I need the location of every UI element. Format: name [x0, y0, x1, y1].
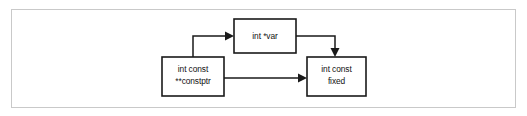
arrow-constptr-to-fixed-head [298, 74, 307, 83]
figure-root: int *var int const **constptr int const … [0, 0, 527, 116]
arrow-constptr-to-var-head [225, 32, 234, 41]
node-int-const-constptr: int const **constptr [162, 57, 224, 96]
arrow-constptr-to-var [193, 32, 234, 58]
arrow-constptr-to-fixed [224, 74, 307, 83]
arrow-var-to-fixed-line [296, 36, 335, 50]
node-int-star-var-label: int *var [252, 31, 278, 41]
arrow-var-to-fixed-head [331, 48, 340, 57]
arrow-var-to-fixed [296, 36, 340, 57]
pointer-const-diagram: int *var int const **constptr int const … [0, 0, 527, 116]
node-int-const-constptr-label-line2: **constptr [175, 76, 211, 86]
node-int-const-fixed: int const fixed [307, 57, 366, 96]
arrow-constptr-to-var-line [193, 36, 227, 57]
node-int-star-var: int *var [234, 19, 296, 53]
node-int-const-constptr-label-line1: int const [178, 64, 209, 74]
node-int-const-fixed-label-line2: fixed [328, 76, 346, 86]
node-int-const-fixed-label-line1: int const [321, 64, 352, 74]
